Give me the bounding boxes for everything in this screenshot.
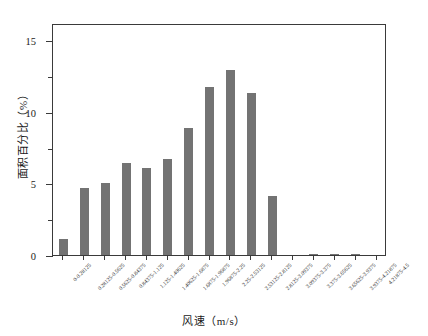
bar <box>122 163 131 255</box>
bar <box>351 254 360 255</box>
x-tick-mark <box>83 256 84 260</box>
y-tick-label: 10 <box>0 107 36 118</box>
x-tick-mark <box>334 256 335 260</box>
y-tick-label: 15 <box>0 36 36 47</box>
bar <box>268 196 277 255</box>
y-tick-label: 0 <box>0 251 36 262</box>
y-minor-tick-mark <box>48 77 53 78</box>
y-minor-tick-mark <box>48 149 53 150</box>
x-tick-mark <box>125 256 126 260</box>
bar <box>247 93 256 255</box>
x-tick-label: 0-0.28125 <box>72 262 92 282</box>
bar <box>101 183 110 255</box>
bar <box>330 254 339 255</box>
y-minor-tick-mark <box>48 220 53 221</box>
x-tick-mark <box>355 256 356 260</box>
x-tick-mark <box>313 256 314 260</box>
x-tick-mark <box>146 256 147 260</box>
bar <box>163 159 172 255</box>
y-tick-mark <box>46 113 53 114</box>
x-tick-mark <box>104 256 105 260</box>
plot-area <box>52 24 386 256</box>
x-tick-mark <box>167 256 168 260</box>
bar <box>184 128 193 255</box>
x-tick-mark <box>62 256 63 260</box>
bar-series <box>53 25 385 255</box>
bar <box>226 70 235 255</box>
y-tick-label: 5 <box>0 179 36 190</box>
bar <box>205 87 214 255</box>
y-tick-mark <box>46 41 53 42</box>
x-tick-mark <box>271 256 272 260</box>
bar <box>80 188 89 255</box>
x-tick-mark <box>209 256 210 260</box>
bar <box>59 239 68 255</box>
bar <box>309 254 318 255</box>
x-tick-mark <box>376 256 377 260</box>
wind-speed-histogram: 面积百分比（%） 051015 0-0.281250.28125-0.56250… <box>0 0 428 336</box>
x-tick-mark <box>229 256 230 260</box>
x-axis-title: 风速（m/s） <box>0 312 428 328</box>
x-tick-mark <box>250 256 251 260</box>
x-tick-mark <box>292 256 293 260</box>
y-tick-mark <box>46 184 53 185</box>
x-tick-mark <box>188 256 189 260</box>
bar <box>142 168 151 255</box>
y-tick-mark <box>46 256 53 257</box>
